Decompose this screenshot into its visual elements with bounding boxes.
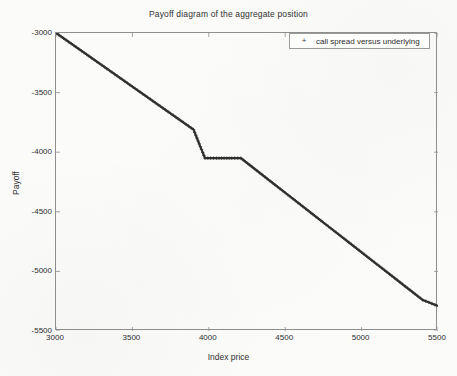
y-tick-label: -4500 — [32, 206, 52, 215]
series-marker — [233, 156, 236, 159]
plot-svg — [56, 33, 438, 331]
series-marker — [236, 156, 239, 159]
x-axis-label: Index price — [0, 352, 457, 362]
y-tick-label: -3000 — [32, 28, 52, 37]
data-series-layer — [56, 33, 438, 306]
y-tick-label: -5000 — [32, 266, 52, 275]
y-tick-label: -3500 — [32, 87, 52, 96]
y-tick-label: -4000 — [32, 147, 52, 156]
x-tick-label: 3500 — [122, 333, 140, 342]
chart-legend[interactable]: + call spread versus underlying — [289, 33, 430, 49]
plot-area — [55, 32, 437, 330]
x-tick-label: 5500 — [428, 333, 446, 342]
x-tick-label: 5000 — [352, 333, 370, 342]
axis-tick-marks — [56, 33, 438, 331]
series-marker — [230, 156, 233, 159]
figure-canvas: Payoff diagram of the aggregate position… — [0, 0, 457, 376]
y-axis-label: Payoff — [11, 153, 21, 213]
legend-plus-icon: + — [296, 37, 312, 45]
y-axis-tick-labels: -3000-3500-4000-4500-5000-5500 — [0, 0, 52, 376]
x-tick-label: 4500 — [275, 333, 293, 342]
x-tick-label: 4000 — [199, 333, 217, 342]
legend-entry-label: call spread versus underlying — [316, 37, 420, 46]
page-title: Payoff diagram of the aggregate position — [0, 9, 457, 19]
x-tick-label: 3000 — [46, 333, 64, 342]
